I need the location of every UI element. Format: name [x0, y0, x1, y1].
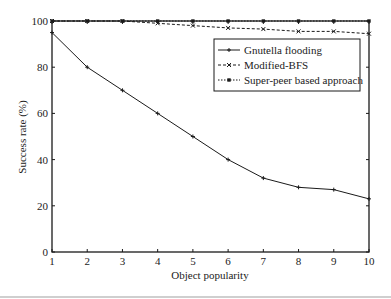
x-tick-label: 1 — [49, 255, 55, 267]
square-marker — [297, 19, 300, 22]
x-tick-label: 4 — [155, 255, 161, 267]
x-tick-label: 9 — [331, 255, 337, 267]
legend: Gnutella floodingModified-BFSSuper-peer … — [214, 39, 363, 91]
square-marker — [191, 19, 194, 22]
y-tick-label: 20 — [37, 200, 49, 212]
square-marker — [226, 19, 229, 22]
y-axis-title: Success rate (%) — [16, 100, 29, 174]
y-tick-label: 100 — [32, 15, 49, 27]
square-marker — [227, 78, 230, 81]
square-marker — [121, 19, 124, 22]
y-tick-label: 80 — [37, 61, 49, 73]
x-tick-label: 10 — [364, 255, 376, 267]
x-tick-label: 5 — [190, 255, 196, 267]
series-line — [52, 21, 369, 34]
legend-label: Modified-BFS — [244, 59, 308, 71]
square-marker — [332, 19, 335, 22]
bottom-divider — [0, 296, 391, 298]
x-tick-label: 8 — [296, 255, 302, 267]
x-tick-label: 7 — [261, 255, 267, 267]
x-tick-label: 2 — [84, 255, 90, 267]
square-marker — [262, 19, 265, 22]
square-marker — [367, 19, 370, 22]
y-tick-label: 40 — [37, 154, 49, 166]
square-marker — [86, 19, 89, 22]
x-axis-title: Object popularity — [171, 269, 249, 281]
x-tick-label: 3 — [120, 255, 126, 267]
line-chart: 12345678910020406080100 Gnutella floodin… — [0, 0, 391, 299]
y-tick-label: 0 — [43, 246, 49, 258]
x-tick-label: 6 — [225, 255, 231, 267]
square-marker — [156, 19, 159, 22]
y-tick-label: 60 — [37, 107, 49, 119]
legend-label: Super-peer based approach — [244, 74, 363, 86]
legend-label: Gnutella flooding — [244, 44, 322, 56]
square-marker — [50, 19, 53, 22]
